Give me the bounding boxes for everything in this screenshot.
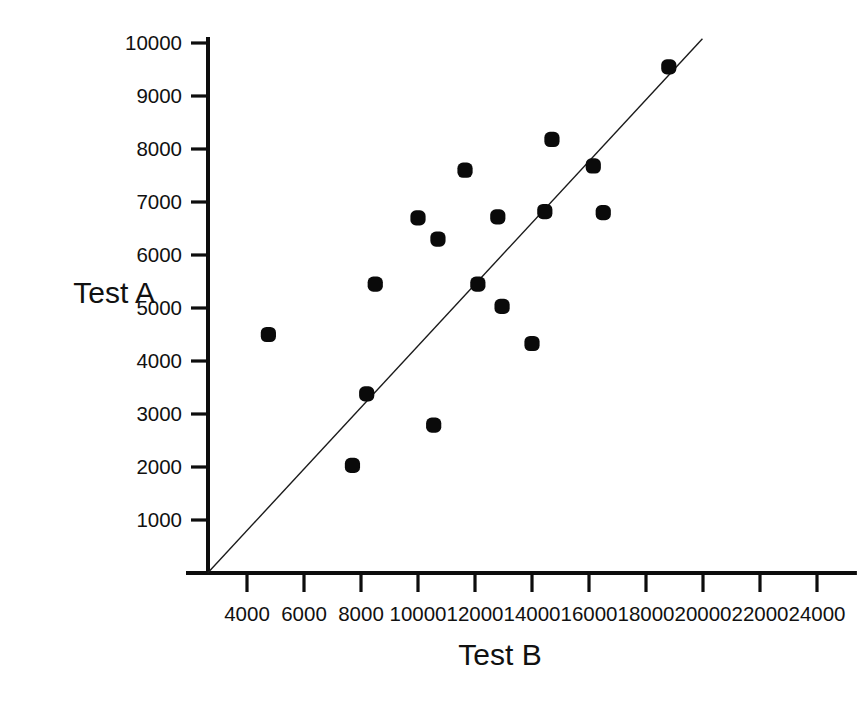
- x-axis-tick-label: 6000: [281, 602, 327, 625]
- x-axis-tick-label: 14000: [503, 602, 560, 625]
- x-axis-tick-label: 4000: [224, 602, 270, 625]
- x-axis-title: Test B: [458, 638, 541, 671]
- axes: [186, 37, 857, 592]
- scatter-plot-figure: 1000200030004000500060007000800090001000…: [0, 0, 868, 701]
- data-point: [596, 205, 611, 220]
- y-axis-tick-label: 8000: [136, 137, 182, 160]
- data-point: [524, 336, 539, 351]
- x-axis-tick-label: 24000: [788, 602, 845, 625]
- identity-reference-line: [208, 39, 703, 573]
- y-axis-tick-label: 6000: [136, 243, 182, 266]
- y-axis-tick-label: 1000: [136, 508, 182, 531]
- data-point: [410, 210, 425, 225]
- x-axis-tick-labels: 4000600080001000012000140001600018000200…: [224, 602, 845, 625]
- data-point: [359, 386, 374, 401]
- y-axis-tick-label: 9000: [136, 84, 182, 107]
- y-axis-tick-label: 2000: [136, 455, 182, 478]
- x-axis-tick-label: 16000: [560, 602, 617, 625]
- x-axis-tick-label: 20000: [674, 602, 731, 625]
- data-point: [537, 204, 552, 219]
- data-point: [261, 327, 276, 342]
- data-point: [368, 277, 383, 292]
- y-axis-tick-label: 7000: [136, 190, 182, 213]
- data-point: [490, 209, 505, 224]
- data-point: [586, 158, 601, 173]
- data-point: [345, 458, 360, 473]
- y-axis-tick-label: 4000: [136, 349, 182, 372]
- data-point: [426, 418, 441, 433]
- y-axis-tick-label: 3000: [136, 402, 182, 425]
- plot-canvas: 1000200030004000500060007000800090001000…: [0, 0, 868, 701]
- data-point: [457, 163, 472, 178]
- data-point: [470, 277, 485, 292]
- y-axis-title: Test A: [73, 276, 155, 309]
- x-axis-tick-label: 12000: [446, 602, 503, 625]
- x-axis-tick-label: 22000: [731, 602, 788, 625]
- y-axis-tick-label: 10000: [125, 31, 182, 54]
- data-point: [661, 59, 676, 74]
- x-axis-tick-label: 18000: [617, 602, 674, 625]
- x-axis-tick-label: 10000: [389, 602, 446, 625]
- data-point: [430, 232, 445, 247]
- data-points: [261, 59, 677, 473]
- x-axis-tick-label: 8000: [338, 602, 384, 625]
- data-point: [544, 132, 559, 147]
- data-point: [494, 299, 509, 314]
- identity-line: [208, 39, 703, 573]
